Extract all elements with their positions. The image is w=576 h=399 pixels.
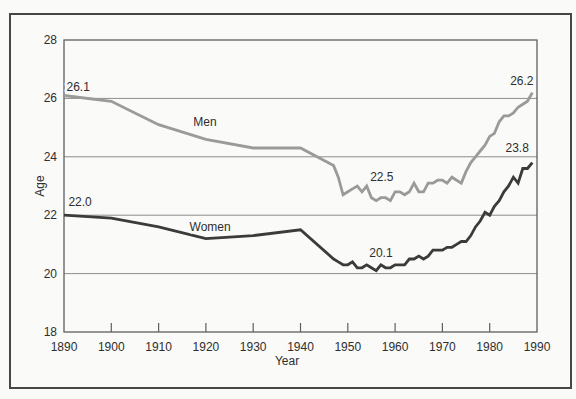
median-age-first-marriage-chart: 1890190019101920193019401950196019701980… [0, 0, 576, 399]
men-line [64, 93, 532, 201]
x-tick-label-1900: 1900 [98, 340, 125, 354]
y-tick-label-24: 24 [44, 150, 58, 164]
annotation-men-start-value: 26.1 [67, 80, 91, 94]
annotation-men-end-value: 26.2 [510, 74, 534, 88]
y-tick-label-20: 20 [44, 267, 58, 281]
x-tick-label-1950: 1950 [334, 340, 361, 354]
y-tick-label-26: 26 [44, 91, 58, 105]
x-tick-label-1890: 1890 [51, 340, 78, 354]
x-tick-label-1910: 1910 [145, 340, 172, 354]
y-tick-label-18: 18 [44, 325, 58, 339]
x-tick-label-1960: 1960 [382, 340, 409, 354]
annotation-women-end-value: 23.8 [505, 141, 529, 155]
x-tick-label-1930: 1930 [240, 340, 267, 354]
x-tick-label-1940: 1940 [287, 340, 314, 354]
annotation-men-min-value: 22.5 [370, 170, 394, 184]
x-tick-label-1970: 1970 [429, 340, 456, 354]
annotation-women-start-value: 22.0 [68, 195, 92, 209]
x-axis-title: Year [275, 354, 299, 368]
x-tick-label-1990: 1990 [524, 340, 551, 354]
y-tick-label-28: 28 [44, 33, 58, 47]
annotation-women-min-value: 20.1 [369, 246, 393, 260]
y-tick-label-22: 22 [44, 208, 58, 222]
x-tick-label-1980: 1980 [476, 340, 503, 354]
men-series-label: Men [193, 115, 216, 129]
plot-border [64, 40, 537, 332]
x-tick-label-1920: 1920 [193, 340, 220, 354]
figure-page: 1890190019101920193019401950196019701980… [0, 0, 576, 399]
y-axis-title: Age [33, 175, 47, 197]
women-series-label: Women [190, 220, 231, 234]
